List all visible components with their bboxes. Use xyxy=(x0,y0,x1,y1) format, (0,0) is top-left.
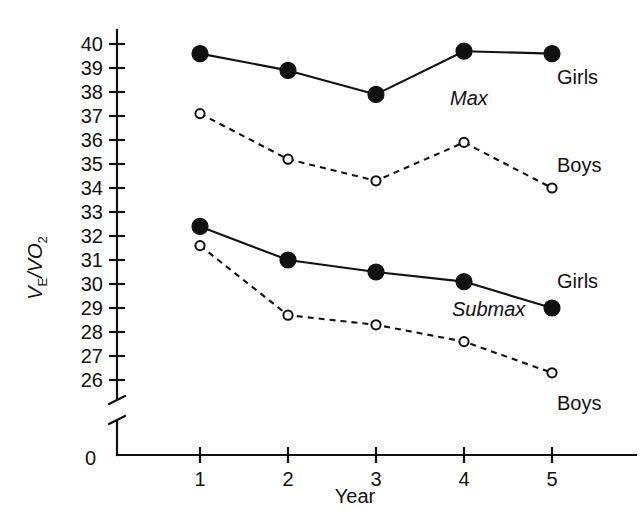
y-axis-title: VE/VO2 xyxy=(24,236,50,300)
x-tick-label: 2 xyxy=(282,468,293,490)
y-axis-title-v2: VO xyxy=(24,243,46,272)
data-point-max-girls-3 xyxy=(368,86,384,102)
y-tick-label: 31 xyxy=(81,249,103,271)
y-tick-label: 28 xyxy=(81,321,103,343)
series-label-max-girls: Girls xyxy=(557,66,598,88)
data-point-max-girls-1 xyxy=(192,46,208,62)
x-tick-label: 5 xyxy=(546,468,557,490)
y-tick-label: 37 xyxy=(81,105,103,127)
data-point-submax-boys-4 xyxy=(459,337,468,346)
series-label-max-boys: Boys xyxy=(557,154,601,176)
data-point-submax-boys-1 xyxy=(195,241,204,250)
data-point-submax-girls-5 xyxy=(544,300,560,316)
data-point-submax-girls-4 xyxy=(456,274,472,290)
y-tick-label: 40 xyxy=(81,33,103,55)
series-annotations-group: Max Submax Girls Boys Girls Boys xyxy=(450,66,601,414)
data-point-max-girls-5 xyxy=(544,46,560,62)
data-point-submax-boys-3 xyxy=(371,320,380,329)
y-tick-label: 38 xyxy=(81,81,103,103)
y-axis-title-sub2: 2 xyxy=(35,236,50,243)
chart-figure: 403938373635343332313029282726 0 VE/VO2 … xyxy=(0,0,642,522)
y-tick-label: 26 xyxy=(81,369,103,391)
data-point-submax-girls-3 xyxy=(368,264,384,280)
data-point-max-boys-3 xyxy=(371,176,380,185)
y-tick-label: 36 xyxy=(81,129,103,151)
y-axis-origin-label: 0 xyxy=(85,447,96,469)
data-point-max-boys-2 xyxy=(283,155,292,164)
data-point-max-boys-5 xyxy=(547,183,556,192)
series-markers-group xyxy=(192,43,560,377)
x-tick-label: 1 xyxy=(194,468,205,490)
annotation-max: Max xyxy=(450,87,489,109)
series-label-submax-boys: Boys xyxy=(557,392,601,414)
y-tick-label: 33 xyxy=(81,201,103,223)
x-axis-title: Year xyxy=(335,485,376,507)
y-tick-label: 27 xyxy=(81,345,103,367)
line-chart-canvas: 403938373635343332313029282726 0 VE/VO2 … xyxy=(0,0,642,522)
x-axis-group: 12345 Year xyxy=(117,447,636,507)
y-axis-title-group: VE/VO2 xyxy=(24,236,50,300)
y-axis-group: 403938373635343332313029282726 0 xyxy=(81,30,125,469)
data-point-max-boys-1 xyxy=(195,109,204,118)
y-tick-label: 34 xyxy=(81,177,103,199)
data-point-max-girls-2 xyxy=(280,62,296,78)
axis-break-marker xyxy=(109,396,125,424)
data-point-max-boys-4 xyxy=(459,138,468,147)
y-tick-label: 30 xyxy=(81,273,103,295)
x-axis-tick-labels: 12345 xyxy=(194,468,557,490)
y-axis-title-sub1: E xyxy=(35,278,50,287)
y-tick-label: 32 xyxy=(81,225,103,247)
data-point-submax-boys-5 xyxy=(547,368,556,377)
data-point-submax-girls-1 xyxy=(192,218,208,234)
data-point-max-girls-4 xyxy=(456,43,472,59)
series-label-submax-girls: Girls xyxy=(557,270,598,292)
y-tick-label: 35 xyxy=(81,153,103,175)
y-tick-label: 29 xyxy=(81,297,103,319)
y-axis-tick-labels: 403938373635343332313029282726 xyxy=(81,33,103,391)
annotation-submax: Submax xyxy=(452,298,526,320)
y-tick-label: 39 xyxy=(81,57,103,79)
x-tick-label: 4 xyxy=(458,468,469,490)
data-point-submax-boys-2 xyxy=(283,311,292,320)
data-point-submax-girls-2 xyxy=(280,252,296,268)
